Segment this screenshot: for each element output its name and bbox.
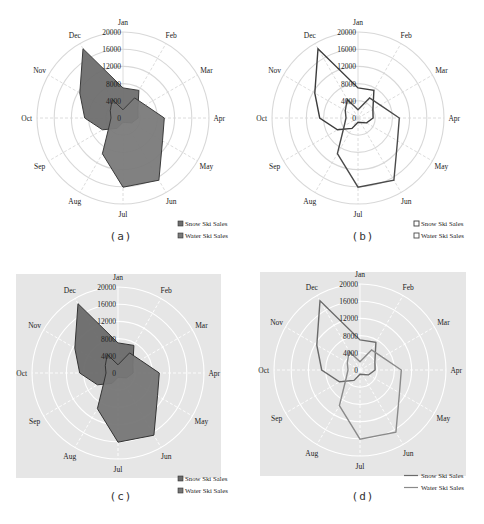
- month-label-mar: Mar: [195, 321, 208, 330]
- month-label-jan: Jan: [353, 18, 363, 27]
- month-label-nov: Nov: [28, 321, 41, 330]
- month-label-feb: Feb: [401, 31, 413, 40]
- radial-tick-label: 4000: [106, 97, 121, 106]
- month-label-oct: Oct: [258, 366, 270, 375]
- month-label-oct: Oct: [21, 114, 33, 123]
- month-label-feb: Feb: [166, 31, 178, 40]
- radial-tick-label: 12000: [339, 314, 358, 323]
- month-label-jun: Jun: [161, 452, 172, 461]
- month-label-mar: Mar: [435, 66, 448, 75]
- month-label-apr: Apr: [448, 114, 460, 123]
- radial-tick-label: 0: [117, 114, 121, 123]
- radial-tick-label: 8000: [101, 335, 116, 344]
- radial-grid: [272, 32, 444, 204]
- caption-a: (a): [0, 230, 242, 243]
- radial-tick-label: 16000: [339, 297, 358, 306]
- radial-tick-label: 20000: [337, 28, 356, 37]
- radial-tick-label: 16000: [97, 300, 116, 309]
- month-label-nov: Nov: [33, 66, 46, 75]
- legend-swatch: [178, 476, 183, 481]
- legend-label: Snow Ski Sales: [185, 475, 228, 482]
- month-label-oct: Oct: [256, 114, 268, 123]
- radial-tick-label: 8000: [106, 80, 121, 89]
- month-label-feb: Feb: [403, 283, 415, 292]
- month-label-mar: Mar: [200, 66, 213, 75]
- series-water-ski-sales: [102, 98, 164, 187]
- legend-label: Snow Ski Sales: [421, 220, 464, 227]
- month-label-sep: Sep: [34, 162, 46, 171]
- month-label-jan: Jan: [118, 18, 128, 27]
- radial-tick-label: 16000: [102, 45, 121, 54]
- radial-tick-label: 4000: [341, 97, 356, 106]
- radial-tick-label: 12000: [102, 62, 121, 71]
- month-label-jun: Jun: [403, 449, 414, 458]
- month-label-sep: Sep: [269, 162, 281, 171]
- month-label-dec: Dec: [69, 31, 82, 40]
- radar-chart-panel-b: 040008000120001600020000JanFebMarAprMayJ…: [242, 0, 484, 262]
- radial-tick-label: 4000: [101, 352, 116, 361]
- caption-b: (b): [242, 230, 484, 243]
- radar-chart-d: 040008000120001600020000JanFebMarAprMayJ…: [242, 262, 484, 524]
- radar-chart-c: 040008000120001600020000JanFebMarAprMayJ…: [0, 262, 242, 524]
- radial-tick-label: 8000: [341, 80, 356, 89]
- month-label-apr: Apr: [208, 369, 220, 378]
- month-label-may: May: [435, 162, 449, 171]
- month-label-jan: Jan: [355, 270, 365, 279]
- radial-tick-label: 20000: [97, 283, 116, 292]
- radar-chart-a: 040008000120001600020000JanFebMarAprMayJ…: [0, 0, 242, 262]
- month-label-oct: Oct: [16, 369, 28, 378]
- month-label-dec: Dec: [64, 286, 77, 295]
- month-label-aug: Aug: [305, 449, 318, 458]
- radial-tick-label: 0: [354, 366, 358, 375]
- month-label-jun: Jun: [401, 197, 412, 206]
- legend-swatch: [414, 221, 419, 226]
- month-label-jul: Jul: [356, 462, 365, 471]
- month-label-aug: Aug: [63, 452, 76, 461]
- month-label-may: May: [437, 414, 451, 423]
- radial-tick-label: 0: [112, 369, 116, 378]
- radial-tick-label: 16000: [337, 45, 356, 54]
- legend-swatch: [178, 221, 183, 226]
- month-label-jul: Jul: [114, 465, 123, 474]
- month-label-dec: Dec: [304, 31, 317, 40]
- month-label-aug: Aug: [68, 197, 81, 206]
- legend-label: Snow Ski Sales: [421, 472, 464, 479]
- month-label-sep: Sep: [29, 417, 41, 426]
- radial-tick-label: 12000: [337, 62, 356, 71]
- caption-c: (c): [0, 490, 242, 503]
- radial-tick-label: 8000: [343, 332, 358, 341]
- radar-chart-panel-d: 040008000120001600020000JanFebMarAprMayJ…: [242, 262, 484, 524]
- month-label-nov: Nov: [270, 318, 283, 327]
- radar-chart-panel-c: 040008000120001600020000JanFebMarAprMayJ…: [0, 262, 242, 524]
- radar-chart-b: 040008000120001600020000JanFebMarAprMayJ…: [242, 0, 484, 262]
- month-label-apr: Apr: [450, 366, 462, 375]
- radial-tick-label: 4000: [343, 349, 358, 358]
- month-label-apr: Apr: [213, 114, 225, 123]
- legend-label: Snow Ski Sales: [185, 220, 228, 227]
- month-label-jul: Jul: [354, 210, 363, 219]
- radial-tick-label: 12000: [97, 317, 116, 326]
- month-label-mar: Mar: [437, 318, 450, 327]
- series-water-ski-sales: [337, 98, 399, 187]
- radial-tick-label: 20000: [102, 28, 121, 37]
- radar-chart-panel-a: 040008000120001600020000JanFebMarAprMayJ…: [0, 0, 242, 262]
- month-label-feb: Feb: [161, 286, 173, 295]
- month-label-may: May: [200, 162, 214, 171]
- month-label-sep: Sep: [271, 414, 283, 423]
- month-label-nov: Nov: [268, 66, 281, 75]
- radial-tick-label: 0: [352, 114, 356, 123]
- month-label-jul: Jul: [119, 210, 128, 219]
- month-label-may: May: [195, 417, 209, 426]
- month-label-aug: Aug: [303, 197, 316, 206]
- radial-tick-label: 20000: [339, 280, 358, 289]
- month-label-jan: Jan: [113, 273, 123, 282]
- month-label-dec: Dec: [306, 283, 319, 292]
- month-label-jun: Jun: [166, 197, 177, 206]
- caption-d: (d): [242, 490, 484, 503]
